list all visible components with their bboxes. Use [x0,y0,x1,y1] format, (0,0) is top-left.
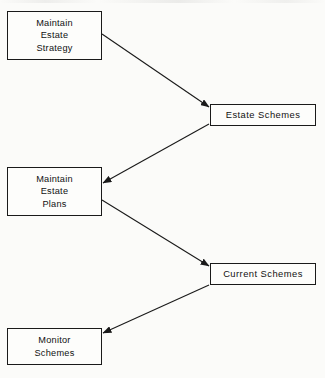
edge-strategy-to-estate-schemes [102,34,209,107]
edge-estate-schemes-to-plans [103,124,209,183]
node-maintain-estate-plans[interactable]: Maintain Estate Plans [7,167,102,216]
node-label-line: Maintain [36,173,73,186]
node-label-line: Estate [41,29,69,42]
node-label-line: Schemes [34,347,74,360]
process-flow-diagram: Maintain Estate Strategy Estate Schemes … [0,0,325,378]
node-label-line: Current Schemes [223,268,303,281]
node-estate-schemes[interactable]: Estate Schemes [210,104,316,126]
node-current-schemes[interactable]: Current Schemes [210,263,316,285]
edge-current-schemes-to-monitor [103,285,209,333]
node-maintain-estate-strategy[interactable]: Maintain Estate Strategy [7,11,102,60]
node-label-line: Strategy [36,42,72,55]
node-label-line: Estate [41,185,69,198]
node-label-line: Monitor [38,334,70,347]
node-label-line: Maintain [36,17,73,30]
node-monitor-schemes[interactable]: Monitor Schemes [7,328,102,365]
edge-plans-to-current-schemes [102,200,209,266]
node-label-line: Estate Schemes [226,109,301,122]
node-label-line: Plans [42,198,66,211]
